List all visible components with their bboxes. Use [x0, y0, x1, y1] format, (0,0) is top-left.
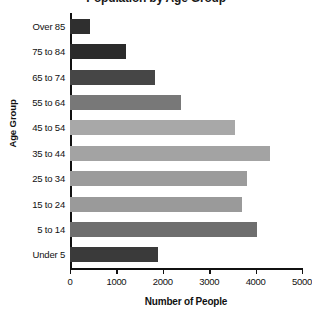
- bar-row: 5 to 14: [70, 217, 257, 242]
- x-axis-tick-label: 5000: [292, 276, 312, 287]
- chart-title: Population by Age Group: [0, 0, 312, 5]
- bar: [70, 222, 257, 237]
- bar: [70, 247, 158, 262]
- x-axis-tick-label: 0: [68, 276, 73, 287]
- bar: [70, 19, 90, 34]
- x-axis-tick-mark: [116, 268, 117, 274]
- x-axis-tick-label: 3000: [199, 276, 219, 287]
- plot-area: Over 8575 to 8465 to 7455 to 6445 to 543…: [70, 14, 302, 268]
- bar: [70, 44, 126, 59]
- bar-row: 25 to 34: [70, 166, 247, 191]
- bar: [70, 146, 270, 161]
- x-axis-tick-mark: [209, 268, 210, 274]
- y-axis-tick-label: 25 to 34: [1, 173, 70, 184]
- x-axis-tick-label: 4000: [246, 276, 266, 287]
- bar-row: 35 to 44: [70, 141, 270, 166]
- bar-row: 55 to 64: [70, 90, 181, 115]
- y-axis-tick-label: 55 to 64: [1, 97, 70, 108]
- x-axis-tick-label: 2000: [153, 276, 173, 287]
- bar-row: Under 5: [70, 243, 158, 268]
- y-axis-tick-label: Under 5: [1, 249, 70, 260]
- y-axis-tick-label: 65 to 74: [1, 72, 70, 83]
- x-axis-tick-mark: [302, 268, 303, 274]
- bar-row: 45 to 54: [70, 116, 235, 141]
- y-axis-tick-label: 35 to 44: [1, 148, 70, 159]
- bar-row: 65 to 74: [70, 65, 155, 90]
- y-axis-tick-label: 15 to 24: [1, 199, 70, 210]
- bar: [70, 197, 242, 212]
- bar: [70, 120, 235, 135]
- y-axis-tick-label: Over 85: [1, 21, 70, 32]
- x-axis-tick-label: 1000: [106, 276, 126, 287]
- y-axis-tick-label: 45 to 54: [1, 122, 70, 133]
- bar-row: 75 to 84: [70, 39, 126, 64]
- bar: [70, 70, 155, 85]
- bar-row: 15 to 24: [70, 192, 242, 217]
- x-axis-tick-mark: [70, 268, 71, 274]
- bar-row: Over 85: [70, 14, 90, 39]
- x-axis-tick-mark: [163, 268, 164, 274]
- y-axis-tick-label: 75 to 84: [1, 46, 70, 57]
- bar: [70, 171, 247, 186]
- x-axis-title: Number of People: [70, 296, 302, 307]
- x-axis-tick-mark: [256, 268, 257, 274]
- bar-chart: Population by Age Group Age Group Over 8…: [0, 0, 312, 319]
- y-axis-tick-label: 5 to 14: [1, 224, 70, 235]
- x-axis-line: [70, 268, 303, 270]
- bar: [70, 95, 181, 110]
